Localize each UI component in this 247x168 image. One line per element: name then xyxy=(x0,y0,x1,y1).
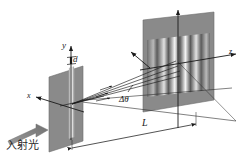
label-slit-separation: d xyxy=(73,55,78,64)
label-incident-light: 入射光 xyxy=(6,140,39,151)
diffraction-diagram: y d x z Δθ L 入射光 xyxy=(0,0,247,168)
interference-fringes xyxy=(147,33,210,97)
label-y-axis: y xyxy=(62,41,66,50)
label-diffraction-angle: Δθ xyxy=(119,95,129,104)
label-z-axis: z xyxy=(229,48,232,56)
slit-plate xyxy=(49,66,83,152)
label-x-axis: x xyxy=(27,92,31,100)
distance-dimension xyxy=(72,112,196,150)
label-distance: L xyxy=(142,118,148,128)
slit-aperture xyxy=(69,67,74,139)
observation-screen xyxy=(143,12,214,112)
